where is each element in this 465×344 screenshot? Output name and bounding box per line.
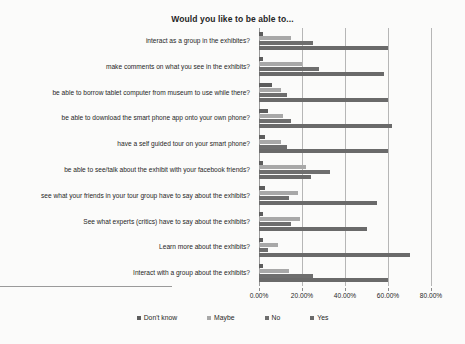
- bar: [259, 72, 384, 76]
- bar-fill: [259, 62, 302, 66]
- bar-fill: [259, 165, 306, 169]
- chart-legend: Don't knowMaybeNoYes: [0, 314, 465, 321]
- bar-fill: [259, 145, 287, 149]
- bar-fill: [259, 269, 289, 273]
- bar-fill: [259, 149, 388, 153]
- category-label: see what your friends in your tour group…: [41, 192, 250, 200]
- category-label: Learn more about the exhibits?: [159, 243, 250, 251]
- bar-fill: [259, 238, 263, 242]
- chart-title: Would you like to be able to...: [0, 14, 465, 24]
- bar-fill: [259, 119, 291, 123]
- bar-fill: [259, 57, 263, 61]
- tick-mark: [302, 288, 303, 291]
- tick-mark: [388, 288, 389, 291]
- gridline-40: [345, 28, 346, 286]
- bar: [259, 57, 263, 61]
- bar: [259, 114, 283, 118]
- tick-label: 20.00%: [291, 292, 313, 299]
- tick-label: 0.00%: [250, 292, 269, 299]
- bar-fill: [259, 32, 263, 36]
- bar-fill: [259, 264, 263, 268]
- bar: [259, 274, 313, 278]
- bar: [259, 269, 289, 273]
- bar: [259, 201, 377, 205]
- bar: [259, 41, 313, 45]
- bar-fill: [259, 191, 298, 195]
- tick-label: 60.00%: [377, 292, 399, 299]
- bar-fill: [259, 140, 281, 144]
- bar: [259, 36, 291, 40]
- tick-label: 40.00%: [334, 292, 356, 299]
- bar: [259, 264, 263, 268]
- category-label: Interact with a group about the exhibits…: [133, 269, 250, 277]
- bar: [259, 124, 392, 128]
- legend-swatch-icon: [310, 316, 314, 320]
- legend-swatch-icon: [137, 316, 141, 320]
- bar-fill: [259, 114, 283, 118]
- bar: [259, 140, 281, 144]
- legend-label: Maybe: [214, 314, 234, 321]
- tick-mark: [431, 288, 432, 291]
- bar-fill: [259, 212, 263, 216]
- tick-mark: [259, 288, 260, 291]
- legend-label: Don't know: [144, 314, 177, 321]
- bar-fill: [259, 253, 410, 257]
- bar-fill: [259, 196, 289, 200]
- bar: [259, 212, 263, 216]
- bar-fill: [259, 222, 291, 226]
- bar-fill: [259, 201, 377, 205]
- bar: [259, 186, 265, 190]
- bar-fill: [259, 67, 319, 71]
- tick-mark: [345, 288, 346, 291]
- legend-swatch-icon: [207, 316, 211, 320]
- bar: [259, 243, 278, 247]
- bar: [259, 217, 300, 221]
- legend-label: Yes: [317, 314, 328, 321]
- bar: [259, 253, 410, 257]
- legend-label: No: [272, 314, 281, 321]
- bar-fill: [259, 274, 313, 278]
- bar-fill: [259, 170, 330, 174]
- bar-fill: [259, 243, 278, 247]
- bar: [259, 32, 263, 36]
- category-label: make comments on what you see in the exh…: [106, 63, 250, 71]
- bar-fill: [259, 217, 300, 221]
- plot-bottom-axis-line: [0, 286, 172, 287]
- bar: [259, 119, 291, 123]
- legend-item[interactable]: Yes: [310, 314, 328, 321]
- legend-item[interactable]: Maybe: [207, 314, 234, 321]
- bar-fill: [259, 124, 392, 128]
- bar: [259, 161, 263, 165]
- bar: [259, 109, 268, 113]
- bar: [259, 191, 298, 195]
- category-label: be able to see/talk about the exhibit wi…: [64, 166, 250, 174]
- bar-fill: [259, 278, 388, 282]
- bar: [259, 98, 388, 102]
- bar-fill: [259, 135, 265, 139]
- bar: [259, 278, 388, 282]
- bar: [259, 238, 263, 242]
- legend-swatch-icon: [265, 316, 269, 320]
- bar-fill: [259, 88, 281, 92]
- bar-fill: [259, 98, 388, 102]
- bar: [259, 170, 330, 174]
- category-label: be able to download the smart phone app …: [62, 114, 250, 122]
- bar: [259, 149, 388, 153]
- bar: [259, 135, 265, 139]
- bar: [259, 227, 367, 231]
- bar-fill: [259, 36, 291, 40]
- bar-fill: [259, 93, 287, 97]
- legend-item[interactable]: Don't know: [137, 314, 177, 321]
- category-label: have a self guided tour on your smart ph…: [117, 140, 250, 148]
- legend-item[interactable]: No: [265, 314, 281, 321]
- bar: [259, 62, 302, 66]
- bar: [259, 46, 388, 50]
- bar: [259, 145, 287, 149]
- value-axis: 0.00%20.00%40.00%60.00%80.00%: [259, 288, 431, 302]
- bar: [259, 67, 319, 71]
- bar: [259, 248, 268, 252]
- bar-fill: [259, 175, 311, 179]
- bar: [259, 88, 281, 92]
- bar-fill: [259, 83, 272, 87]
- category-label: interact as a group in the exhibites?: [146, 37, 250, 45]
